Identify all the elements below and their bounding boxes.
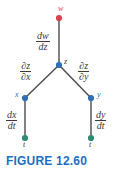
node-label-y: y	[97, 91, 101, 99]
node-label-t-right: t	[89, 141, 91, 149]
tree-node-x	[22, 95, 28, 101]
edge-label-dy-dt: dydt	[95, 110, 106, 131]
figure-container: wzxytt dwdz∂z∂x∂z∂ydxdtdydt FIGURE 12.60	[0, 0, 117, 172]
edge-label-dy-dt-denominator: dt	[95, 121, 106, 131]
edge-label-dz-dx-denominator: ∂x	[20, 72, 31, 82]
node-label-z: z	[64, 58, 67, 66]
edge-label-dx-dt: dxdt	[6, 110, 17, 131]
edge-label-dx-dt-denominator: dt	[6, 121, 17, 131]
edge-label-dz-dx: ∂z∂x	[20, 61, 31, 82]
edge-label-dz-dy: ∂z∂y	[78, 61, 89, 82]
tree-node-w	[56, 15, 62, 21]
tree-node-z	[56, 62, 62, 68]
tree-node-y	[88, 95, 94, 101]
figure-caption: FIGURE 12.60	[6, 154, 87, 168]
node-label-x: x	[15, 91, 19, 99]
edge-label-dw-dz: dwdz	[36, 31, 50, 52]
edge-label-dz-dy-denominator: ∂y	[78, 72, 89, 82]
node-label-w: w	[58, 5, 63, 13]
node-label-t-left: t	[23, 141, 25, 149]
edge-label-dw-dz-denominator: dz	[36, 42, 50, 52]
